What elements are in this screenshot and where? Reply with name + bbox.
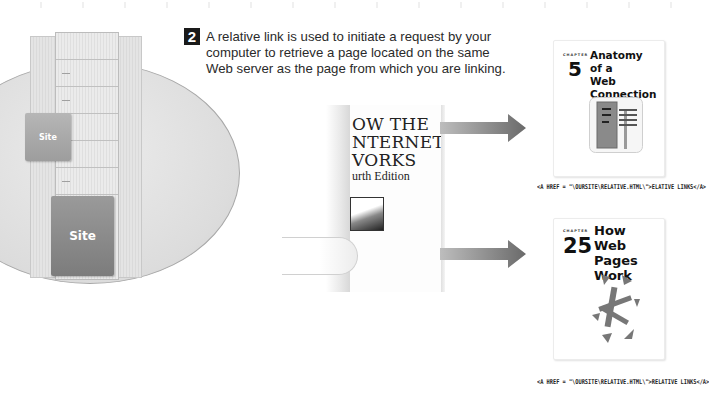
link-arrow-to-chapter-5-icon xyxy=(440,114,530,142)
chapter-25-label: CHAPTER xyxy=(563,229,588,233)
link-arrow-to-chapter-25-icon xyxy=(440,240,530,268)
book-title-line-2: NTERNET xyxy=(352,133,444,151)
chapter-25-page: CHAPTER 25 How Web Pages Work xyxy=(553,218,665,360)
site-label-large: Site xyxy=(69,229,96,243)
chapter-5-page: CHAPTER 5 Anatomy of a Web Connection xyxy=(553,40,665,177)
site-label-small: Site xyxy=(39,133,57,142)
relative-link-code-chapter-25: <A HREF = "\OURSITE\RELATIVE.HTML\">RELA… xyxy=(537,378,709,387)
book-title-line-1: OW THE xyxy=(352,115,444,133)
site-page-large: Site xyxy=(51,196,114,276)
chapter-25-title-line-1: How xyxy=(594,223,664,238)
chapter-5-number: 5 xyxy=(568,59,582,79)
book-cover: OW THE NTERNET VORKS urth Edition xyxy=(290,105,445,292)
book-title: OW THE NTERNET VORKS xyxy=(352,115,444,169)
relative-link-code-chapter-5: <A HREF = "\OURSITE\RELATIVE.HTML\">ELAT… xyxy=(537,183,706,192)
web-server-graphic: Site Site xyxy=(0,0,200,290)
chapter-5-title-line-2: of a xyxy=(590,62,664,75)
server-rack-icon xyxy=(589,97,643,157)
book-title-line-3: VORKS xyxy=(352,151,444,169)
step-caption: A relative link is used to initiate a re… xyxy=(206,29,506,77)
chapter-5-title-line-1: Anatomy xyxy=(590,49,664,62)
book-edition: urth Edition xyxy=(352,169,410,183)
page-curl xyxy=(282,237,358,275)
book-cover-image xyxy=(350,197,384,231)
site-page-small: Site xyxy=(25,113,71,161)
chapter-5-title: Anatomy of a Web Connection xyxy=(590,49,664,101)
scattered-arrows-icon xyxy=(592,273,648,349)
chapter-25-title-line-2: Web Pages xyxy=(594,238,664,268)
chapter-25-number: 25 xyxy=(563,236,592,256)
